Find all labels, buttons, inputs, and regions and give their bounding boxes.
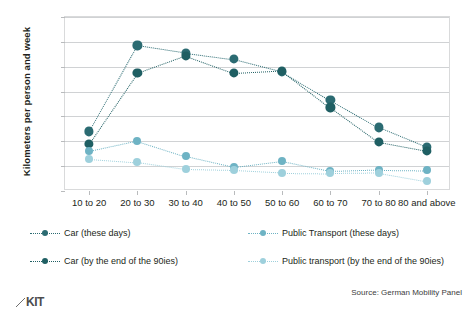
y-axis-tick-mark <box>61 42 65 43</box>
kit-logo-text: KIT <box>26 295 44 309</box>
x-axis-tick-mark <box>379 191 380 195</box>
series-line-segment <box>378 127 427 148</box>
series-line-segment <box>89 141 137 152</box>
data-point <box>182 152 190 160</box>
legend-label: Public transport (by the end of the 90ie… <box>282 256 444 266</box>
y-axis-tick-mark <box>61 191 65 192</box>
x-axis-tick-mark <box>186 191 187 195</box>
legend-label: Car (these days) <box>64 228 131 238</box>
chart-legend: Car (these days)Car (by the end of the 9… <box>30 228 450 280</box>
y-axis-tick-mark <box>61 17 65 18</box>
series-line-segment <box>137 141 186 157</box>
data-point <box>423 166 431 174</box>
source-note: Source: German Mobility Panel <box>351 288 462 297</box>
series-line-segment <box>89 73 138 144</box>
plot-area: 05010015020025030035010 to 2020 to 3030 … <box>64 16 450 190</box>
data-point <box>423 177 431 185</box>
legend-label: Public Transport (these days) <box>282 228 399 238</box>
legend-swatch-icon <box>30 256 60 266</box>
series-line-segment <box>137 45 185 53</box>
series-line-segment <box>186 169 234 171</box>
y-axis-tick-mark <box>61 116 65 117</box>
data-point <box>133 41 142 50</box>
x-axis-tick-label: 80 and above <box>394 197 460 208</box>
legend-item[interactable]: Car (these days) <box>30 228 131 238</box>
series-line-segment <box>89 45 138 131</box>
data-point <box>278 157 286 165</box>
gridline <box>65 67 449 68</box>
series-line-segment <box>137 56 186 74</box>
legend-swatch-icon <box>248 228 278 238</box>
series-line-segment <box>89 159 137 163</box>
series-line-segment <box>282 71 331 109</box>
data-point <box>85 127 94 136</box>
series-line-segment <box>282 173 330 174</box>
series-line-segment <box>330 173 378 174</box>
gridline <box>65 166 449 167</box>
legend-item[interactable]: Car (by the end of the 90ies) <box>30 256 178 266</box>
data-point <box>133 158 141 166</box>
legend-marker <box>260 230 266 236</box>
legend-marker <box>42 258 48 264</box>
data-point <box>85 155 93 163</box>
data-point <box>374 138 383 147</box>
gridline <box>65 141 449 142</box>
gridline <box>65 17 449 18</box>
gridline <box>65 116 449 117</box>
data-point <box>422 147 431 156</box>
x-axis-tick-mark <box>137 191 138 195</box>
gridline <box>65 42 449 43</box>
y-axis-title: Kilometers per person and week <box>21 12 32 192</box>
legend-swatch-icon <box>248 256 278 266</box>
legend-swatch-icon <box>30 228 60 238</box>
data-point <box>278 169 286 177</box>
series-line-segment <box>234 71 282 74</box>
data-point <box>326 169 334 177</box>
x-axis-tick-mark <box>330 191 331 195</box>
legend-label: Car (by the end of the 90ies) <box>64 256 178 266</box>
series-line-segment <box>234 170 282 173</box>
data-point <box>374 123 383 132</box>
data-point <box>181 51 190 60</box>
kit-logo: KIT <box>16 295 44 309</box>
data-point <box>230 166 238 174</box>
x-axis-tick-mark <box>89 191 90 195</box>
y-axis-tick-mark <box>61 166 65 167</box>
x-axis-tick-mark <box>282 191 283 195</box>
kit-mark-icon <box>16 298 25 307</box>
data-point <box>182 165 190 173</box>
series-line-segment <box>379 170 427 171</box>
data-point <box>133 137 141 145</box>
y-axis-tick-mark <box>61 92 65 93</box>
data-point <box>133 69 142 78</box>
legend-item[interactable]: Public transport (by the end of the 90ie… <box>248 256 444 266</box>
x-axis-tick-mark <box>427 191 428 195</box>
data-point <box>229 69 238 78</box>
x-axis-tick-mark <box>234 191 235 195</box>
legend-marker <box>42 230 48 236</box>
chart-figure: Kilometers per person and week 050100150… <box>0 0 474 316</box>
y-axis-tick-mark <box>61 67 65 68</box>
legend-item[interactable]: Public Transport (these days) <box>248 228 399 238</box>
data-point <box>229 55 238 64</box>
series-line-segment <box>378 173 426 182</box>
data-point <box>375 169 383 177</box>
y-axis-tick-mark <box>61 141 65 142</box>
legend-marker <box>260 258 266 264</box>
